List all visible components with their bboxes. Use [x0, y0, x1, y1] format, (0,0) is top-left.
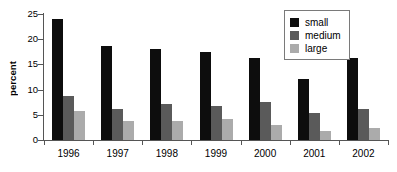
x-axis-line	[43, 140, 389, 141]
y-axis-tick-label: 15	[4, 59, 38, 69]
x-axis-tick-label: 2002	[339, 148, 388, 160]
x-axis-tick	[241, 141, 242, 145]
x-axis-tick	[290, 141, 291, 145]
legend-swatch-icon	[290, 44, 299, 53]
bar-large-1996	[74, 111, 85, 140]
bar-small-2001	[298, 79, 309, 140]
bar-small-2000	[249, 58, 260, 140]
x-axis-tick	[191, 141, 192, 145]
bar-medium-2002	[358, 109, 369, 140]
y-axis-tick-label: 25	[4, 9, 38, 19]
bar-large-1997	[123, 121, 134, 140]
legend-item-small[interactable]: small	[290, 16, 341, 28]
bar-medium-1997	[112, 109, 123, 140]
y-axis-tick-label: 0	[4, 135, 38, 145]
bar-large-2001	[320, 131, 331, 140]
bar-large-2000	[271, 125, 282, 140]
x-axis-tick-label: 1997	[93, 148, 142, 160]
bar-large-1999	[222, 119, 233, 140]
bar-small-2002	[347, 58, 358, 140]
bar-medium-2000	[260, 102, 271, 140]
legend-item-label: large	[305, 43, 327, 54]
x-axis-tick	[142, 141, 143, 145]
bar-medium-2001	[309, 113, 320, 140]
y-axis-tick-labels: 0510152025	[0, 0, 38, 172]
bar-medium-1996	[63, 96, 74, 140]
bar-large-1998	[172, 121, 183, 140]
x-axis-tick	[388, 141, 389, 145]
x-axis-tick-label: 1999	[191, 148, 240, 160]
legend-item-large[interactable]: large	[290, 42, 341, 54]
x-axis-tick	[339, 141, 340, 145]
bar-small-1996	[52, 19, 63, 140]
y-axis-tick-label: 10	[4, 85, 38, 95]
legend-item-label: medium	[305, 30, 341, 41]
y-axis-tick-label: 5	[4, 110, 38, 120]
x-axis-tick-label: 2001	[290, 148, 339, 160]
legend-swatch-icon	[290, 18, 299, 27]
legend-item-label: small	[305, 17, 328, 28]
x-axis-tick-label: 1998	[142, 148, 191, 160]
legend-swatch-icon	[290, 31, 299, 40]
bar-small-1999	[200, 52, 211, 140]
bar-medium-1998	[161, 104, 172, 140]
legend: smallmediumlarge	[284, 10, 350, 60]
x-axis-tick	[93, 141, 94, 145]
bar-large-2002	[369, 128, 380, 140]
bar-chart: percent 0510152025 199619971998199920002…	[0, 0, 397, 172]
x-axis-tick-label: 2000	[241, 148, 290, 160]
x-axis-tick-label: 1996	[44, 148, 93, 160]
x-axis-tick	[44, 141, 45, 145]
bar-small-1998	[150, 49, 161, 140]
bar-small-1997	[101, 46, 112, 140]
bar-medium-1999	[211, 106, 222, 140]
y-axis-tick-label: 20	[4, 34, 38, 44]
legend-item-medium[interactable]: medium	[290, 29, 341, 41]
